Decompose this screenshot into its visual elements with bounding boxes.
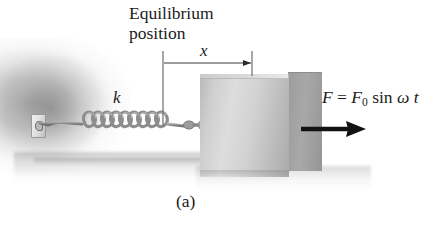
equilibrium-position-label-line1: Equilibrium — [129, 4, 214, 24]
spring-constant-label: k — [113, 88, 121, 107]
omega-symbol: ω — [397, 87, 409, 107]
displacement-label: x — [200, 41, 208, 60]
time-symbol: t — [414, 87, 419, 107]
force-amplitude-symbol: F — [351, 87, 362, 107]
force-equation-label: F = F0 sin ω t — [322, 88, 419, 109]
equilibrium-position-label: Equilibrium position — [129, 4, 214, 43]
sine-function-label: sin — [372, 87, 392, 107]
mass-block-bottom-edge — [200, 170, 289, 176]
physics-figure-forced-oscillator: Equilibrium position x k F = F0 sin ω t … — [0, 0, 441, 229]
displacement-dimension-arrow — [156, 48, 262, 128]
figure-caption: (a) — [176, 192, 195, 212]
ground-surface-line — [34, 158, 214, 165]
force-amplitude-subscript: 0 — [362, 96, 368, 108]
force-symbol: F — [322, 87, 333, 107]
equals-sign: = — [337, 87, 347, 107]
driving-force-arrow — [300, 118, 370, 140]
